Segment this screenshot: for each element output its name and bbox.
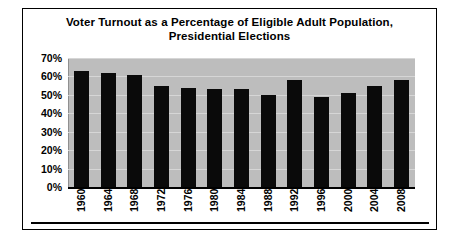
y-axis-tick-label: 30%	[41, 127, 62, 138]
bar	[154, 86, 169, 187]
bar	[314, 97, 329, 187]
chart-container: Voter Turnout as a Percentage of Eligibl…	[22, 8, 437, 230]
x-axis-rule	[31, 222, 429, 224]
bar-series	[68, 58, 415, 187]
y-axis-tick-label: 40%	[41, 108, 62, 119]
bar	[261, 95, 276, 187]
y-axis-tick-label: 70%	[41, 53, 62, 64]
y-axis-tick-label: 50%	[41, 90, 62, 101]
bar	[287, 80, 302, 187]
y-axis-tick-label: 0%	[47, 182, 62, 193]
bar	[207, 89, 222, 187]
bar	[127, 75, 142, 187]
y-axis-tick-label: 60%	[41, 71, 62, 82]
bar	[367, 86, 382, 187]
chart-title-line-2: Presidential Elections	[23, 30, 436, 44]
y-axis-tick-label: 10%	[41, 164, 62, 175]
chart-title-line-1: Voter Turnout as a Percentage of Eligibl…	[66, 16, 393, 28]
bar	[101, 73, 116, 187]
bar	[74, 71, 89, 187]
chart-title: Voter Turnout as a Percentage of Eligibl…	[23, 16, 436, 43]
bar	[181, 88, 196, 188]
plot-area	[68, 58, 415, 187]
bar	[394, 80, 409, 187]
y-axis-tick-label: 20%	[41, 145, 62, 156]
bar	[234, 89, 249, 187]
bar	[341, 93, 356, 187]
